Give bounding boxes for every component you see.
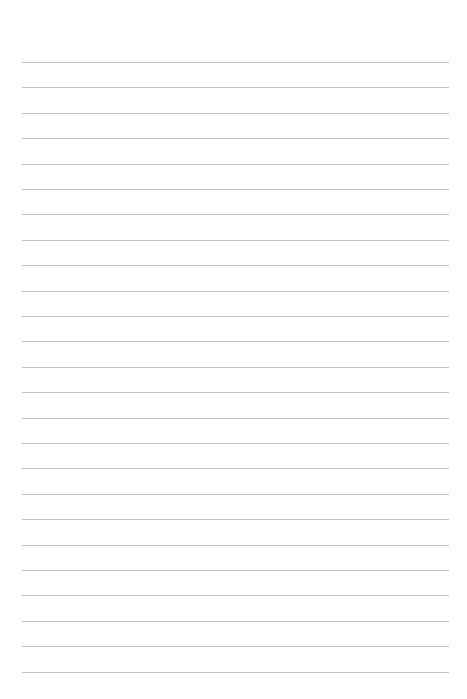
ruled-line [22,468,449,469]
ruled-line [22,164,449,165]
ruled-line [22,519,449,520]
ruled-line [22,392,449,393]
ruled-line [22,341,449,342]
ruled-line [22,189,449,190]
ruled-line [22,291,449,292]
ruled-line [22,87,449,88]
ruled-line [22,595,449,596]
ruled-line [22,570,449,571]
ruled-line [22,113,449,114]
ruled-line [22,646,449,647]
ruled-line [22,138,449,139]
ruled-line [22,418,449,419]
ruled-line [22,316,449,317]
ruled-line [22,494,449,495]
ruled-line [22,62,449,63]
ruled-line [22,265,449,266]
ruled-line [22,214,449,215]
ruled-line [22,672,449,673]
ruled-line [22,240,449,241]
ruled-line [22,545,449,546]
ruled-line [22,443,449,444]
ruled-line [22,367,449,368]
ruled-line [22,621,449,622]
lined-paper-page [0,0,467,699]
